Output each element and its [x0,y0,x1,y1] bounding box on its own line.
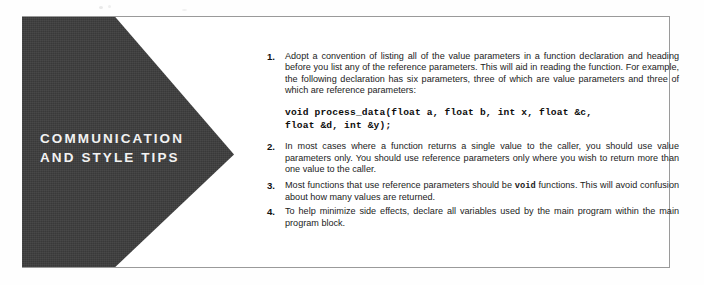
inline-code-void: void [515,181,536,191]
page-canvas: 1. Adopt a convention of listing all of … [0,0,704,285]
list-item-text: In most cases where a function returns a… [285,141,679,174]
scan-speckle [99,6,103,9]
scan-speckle [108,5,111,8]
code-line-1: void process_data(float a, float b, int … [285,107,592,118]
list-item-text: Adopt a convention of listing all of the… [285,51,679,95]
list-item-text-before: Most functions that use reference parame… [285,180,515,190]
list-item: 3. Most functions that use reference par… [267,180,679,204]
tips-list: 1. Adopt a convention of listing all of … [267,51,679,229]
list-item-number: 1. [267,51,275,62]
list-item: 1. Adopt a convention of listing all of … [267,51,679,97]
code-line-2: float &d, int &y); [285,120,391,131]
list-item-number: 2. [267,141,275,152]
code-sample: void process_data(float a, float b, int … [285,106,679,133]
list-item-number: 4. [267,206,275,217]
list-item-number: 3. [267,180,275,191]
list-item: 4. To help minimize side effects, declar… [267,206,679,229]
list-item-text: To help minimize side effects, declare a… [285,206,679,227]
list-item: 2. In most cases where a function return… [267,141,679,175]
callout-label-text: COMMUNICATION AND STYLE TIPS [40,129,220,167]
scan-speckle [182,9,187,11]
